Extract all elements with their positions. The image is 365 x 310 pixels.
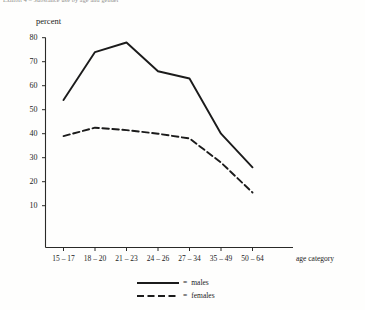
legend-item-females: = females: [135, 289, 305, 302]
chart-series-layer: [64, 43, 253, 193]
y-tick-label: 70: [22, 57, 38, 66]
y-tick-label: 60: [22, 81, 38, 90]
legend-swatch-solid: [135, 278, 181, 288]
line-chart: [0, 0, 365, 310]
y-tick-label: 80: [22, 33, 38, 42]
series-line-males: [64, 43, 253, 168]
legend-equals-females: =: [181, 291, 191, 300]
legend-equals-males: =: [181, 278, 191, 287]
y-tick-label: 50: [22, 105, 38, 114]
legend-item-males: = males: [135, 276, 305, 289]
chart-axes: [46, 38, 294, 248]
y-tick-label: 20: [22, 177, 38, 186]
y-tick-label: 30: [22, 153, 38, 162]
y-tick-label: 40: [22, 129, 38, 138]
legend-label-males: males: [191, 278, 209, 287]
chart-legend: = males = females: [135, 276, 305, 302]
y-tick-label: 10: [22, 201, 38, 210]
legend-label-females: females: [191, 291, 214, 300]
x-tick-label: 50 – 64: [233, 254, 273, 263]
legend-swatch-dashed: [135, 291, 181, 301]
